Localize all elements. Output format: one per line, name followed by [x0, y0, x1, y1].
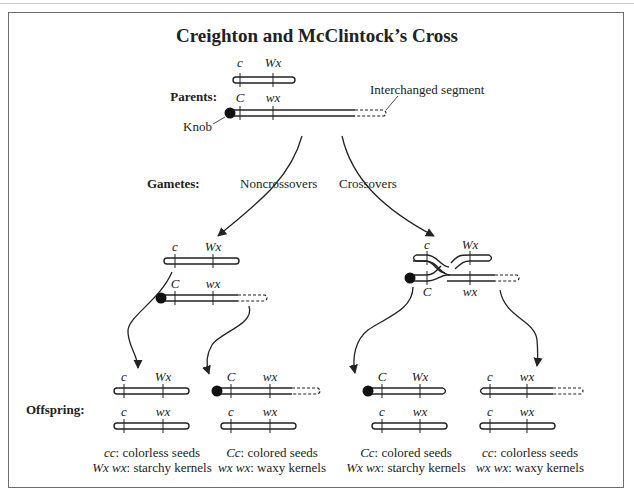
gamete-noncrossover-top: c Wx — [164, 239, 239, 268]
gene-label: c — [172, 239, 178, 254]
row-label-parents: Parents: — [170, 89, 217, 104]
gene-label: Wx — [462, 237, 479, 252]
gene-label: Wx — [205, 239, 222, 254]
arrow-offspring-2 — [207, 306, 250, 374]
gene-label: wx — [520, 404, 535, 419]
branch-label-crossovers: Crossovers — [339, 176, 397, 191]
gene-label: C — [171, 276, 180, 291]
gene-label: wx — [463, 284, 478, 299]
gene-label: c — [121, 369, 127, 384]
knob-icon — [405, 273, 416, 284]
branch-label-noncrossovers: Noncrossovers — [240, 176, 317, 191]
offspring-4: c wx c wx cc: colorless seeds wx wx: wax… — [476, 369, 584, 475]
offspring-caption-line1: Cc: colored seeds — [360, 445, 452, 460]
gene-label: C — [423, 284, 432, 299]
arrow-offspring-4 — [500, 290, 538, 366]
gene-label: c — [487, 369, 493, 384]
offspring-caption-line1: Cc: colored seeds — [226, 445, 318, 460]
offspring-caption-line2: wx wx: waxy kernels — [218, 460, 326, 475]
gene-label: c — [228, 404, 234, 419]
gene-label: c — [487, 404, 493, 419]
cross-diagram: Creighton and McClintock’s Cross c Wx Pa… — [0, 0, 634, 499]
gene-label: Wx — [412, 369, 429, 384]
gene-label: C — [227, 369, 236, 384]
knob-icon — [363, 386, 374, 397]
gamete-noncrossover-bottom: C wx — [156, 276, 268, 305]
gene-label: c — [424, 237, 430, 252]
gene-label: c — [379, 404, 385, 419]
gene-label: wx — [263, 369, 278, 384]
interchanged-segment-annotation: Interchanged segment — [370, 82, 485, 97]
offspring-2: C wx c wx Cc: colored seeds wx wx: waxy … — [212, 369, 326, 475]
gene-label: wx — [413, 404, 428, 419]
figure-title: Creighton and McClintock’s Cross — [176, 25, 458, 46]
offspring-3: C Wx c wx Cc: colored seeds Wx wx: starc… — [346, 369, 466, 475]
knob-icon — [225, 108, 236, 119]
gene-label: Wx — [265, 55, 282, 70]
gene-label: c — [121, 404, 127, 419]
offspring-caption-line2: Wx wx: starchy kernels — [92, 460, 212, 475]
gene-label: wx — [520, 369, 535, 384]
offspring-caption-line1: cc: colorless seeds — [104, 445, 200, 460]
gene-label: c — [237, 55, 243, 70]
offspring-caption-line2: wx wx: waxy kernels — [476, 460, 584, 475]
offspring-caption-line1: cc: colorless seeds — [482, 445, 578, 460]
knob-annotation: Knob — [183, 119, 212, 134]
offspring-1: c Wx c wx cc: colorless seeds Wx wx: sta… — [92, 369, 212, 475]
gene-label: C — [236, 90, 245, 105]
gene-label: wx — [263, 404, 278, 419]
gene-label: Wx — [155, 369, 172, 384]
parent-chromosome-top: c Wx — [233, 55, 295, 87]
interchanged-segment — [355, 110, 386, 116]
arrow-offspring-3 — [354, 287, 413, 373]
gene-label: wx — [266, 90, 281, 105]
row-label-offspring: Offspring: — [26, 402, 85, 417]
gene-label: wx — [156, 404, 171, 419]
gamete-crossover-pair: c Wx C wx — [405, 237, 520, 299]
gene-label: wx — [206, 276, 221, 291]
gene-label: C — [378, 369, 387, 384]
offspring-caption-line2: Wx wx: starchy kernels — [346, 460, 466, 475]
knob-icon — [212, 386, 223, 397]
arrow-offspring-1 — [128, 272, 172, 368]
row-label-gametes: Gametes: — [147, 176, 200, 191]
